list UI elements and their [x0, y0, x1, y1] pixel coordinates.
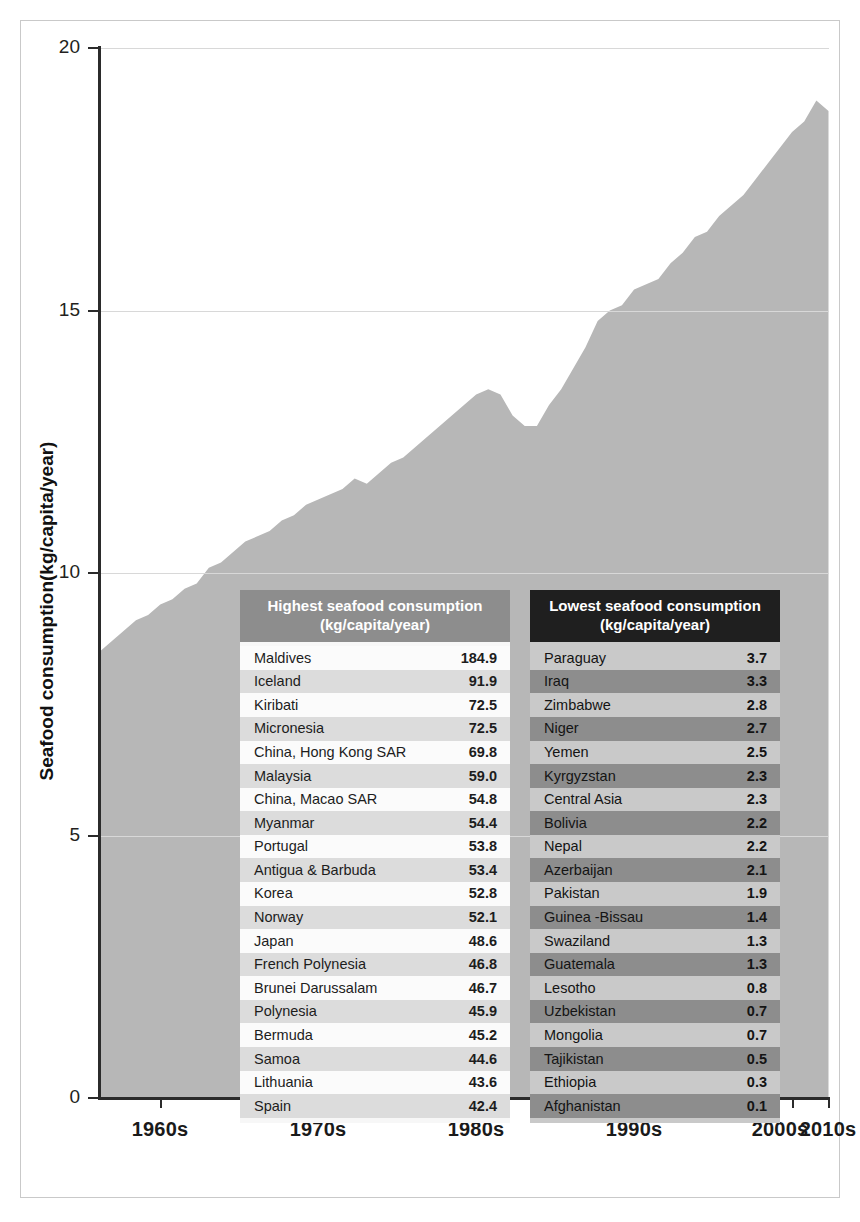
highest-country: Antigua & Barbuda — [254, 860, 376, 881]
table-lowest-consumption: Lowest seafood consumption (kg/capita/ye… — [530, 590, 780, 1123]
lowest-country: Yemen — [544, 742, 589, 763]
highest-country: Norway — [254, 907, 303, 928]
highest-country: Korea — [254, 883, 293, 904]
table-row: Guatemala1.3 — [530, 953, 780, 977]
highest-country: Lithuania — [254, 1072, 313, 1093]
highest-value: 72.5 — [469, 718, 497, 739]
x-tick-2000s — [792, 1097, 794, 1108]
highest-value: 69.8 — [469, 742, 497, 763]
highest-value: 72.5 — [469, 695, 497, 716]
lowest-value: 0.1 — [747, 1096, 767, 1117]
lowest-country: Niger — [544, 718, 579, 739]
y-tick-label-5: 5 — [40, 825, 80, 844]
lowest-country: Iraq — [544, 671, 569, 692]
lowest-value: 2.3 — [747, 766, 767, 787]
table-row: Norway52.1 — [240, 906, 510, 930]
lowest-value: 0.3 — [747, 1072, 767, 1093]
table-row: Yemen2.5 — [530, 741, 780, 765]
table-row: Malaysia59.0 — [240, 764, 510, 788]
table-row: Pakistan1.9 — [530, 882, 780, 906]
highest-country: Kiribati — [254, 695, 298, 716]
y-tick-label-20: 20 — [40, 37, 80, 56]
highest-country: Polynesia — [254, 1001, 317, 1022]
table-row: Lesotho0.8 — [530, 976, 780, 1000]
table-row: Myanmar54.4 — [240, 811, 510, 835]
lowest-value: 2.8 — [747, 695, 767, 716]
table-row: China, Macao SAR54.8 — [240, 788, 510, 812]
table-row: Bolivia2.2 — [530, 811, 780, 835]
lowest-value: 0.7 — [747, 1025, 767, 1046]
lowest-value: 2.3 — [747, 789, 767, 810]
chart-figure: 20151050 1960s1970s1980s1990s2000s2010s … — [0, 0, 860, 1222]
table-row: Central Asia2.3 — [530, 788, 780, 812]
table-row: Afghanistan0.1 — [530, 1094, 780, 1118]
table-row: Maldives184.9 — [240, 646, 510, 670]
table-row: Portugal53.8 — [240, 835, 510, 859]
lowest-value: 0.5 — [747, 1049, 767, 1070]
table-row: China, Hong Kong SAR69.8 — [240, 741, 510, 765]
lowest-country: Nepal — [544, 836, 582, 857]
y-tick-0 — [88, 1097, 99, 1099]
highest-value: 43.6 — [469, 1072, 497, 1093]
lowest-country: Lesotho — [544, 978, 596, 999]
lowest-value: 0.7 — [747, 1001, 767, 1022]
highest-country: Brunei Darussalam — [254, 978, 377, 999]
y-tick-label-15: 15 — [40, 300, 80, 319]
y-tick-5 — [88, 835, 99, 837]
highest-country: China, Macao SAR — [254, 789, 377, 810]
table-row: Azerbaijan2.1 — [530, 858, 780, 882]
lowest-country: Guinea -Bissau — [544, 907, 643, 928]
table-highest-header-line1: Highest seafood consumption — [246, 597, 504, 616]
highest-value: 52.8 — [469, 883, 497, 904]
gridline-10 — [98, 573, 829, 574]
lowest-value: 1.3 — [747, 954, 767, 975]
table-row: Nepal2.2 — [530, 835, 780, 859]
y-tick-20 — [88, 47, 99, 49]
x-tick-1960s — [160, 1097, 162, 1108]
table-row: Guinea -Bissau1.4 — [530, 906, 780, 930]
highest-value: 45.2 — [469, 1025, 497, 1046]
lowest-value: 1.9 — [747, 883, 767, 904]
lowest-country: Zimbabwe — [544, 695, 611, 716]
table-row: Samoa44.6 — [240, 1047, 510, 1071]
highest-country: Iceland — [254, 671, 301, 692]
gridline-20 — [98, 48, 829, 49]
highest-country: Micronesia — [254, 718, 324, 739]
highest-value: 59.0 — [469, 766, 497, 787]
y-tick-15 — [88, 310, 99, 312]
table-highest-header-line2: (kg/capita/year) — [246, 616, 504, 635]
table-highest-consumption: Highest seafood consumption (kg/capita/y… — [240, 590, 510, 1123]
table-highest-header: Highest seafood consumption (kg/capita/y… — [240, 590, 510, 642]
table-lowest-body: Paraguay3.7Iraq3.3Zimbabwe2.8Niger2.7Yem… — [530, 642, 780, 1123]
lowest-value: 1.4 — [747, 907, 767, 928]
table-row: Iraq3.3 — [530, 670, 780, 694]
table-row: Kiribati72.5 — [240, 693, 510, 717]
lowest-country: Bolivia — [544, 813, 587, 834]
x-tick-2010s — [828, 1097, 830, 1108]
highest-country: Portugal — [254, 836, 308, 857]
lowest-country: Guatemala — [544, 954, 615, 975]
y-tick-label-0: 0 — [40, 1087, 80, 1106]
lowest-value: 2.1 — [747, 860, 767, 881]
table-lowest-header: Lowest seafood consumption (kg/capita/ye… — [530, 590, 780, 642]
highest-value: 52.1 — [469, 907, 497, 928]
lowest-country: Pakistan — [544, 883, 600, 904]
table-highest-body: Maldives184.9Iceland91.9Kiribati72.5Micr… — [240, 642, 510, 1123]
table-row: Tajikistan0.5 — [530, 1047, 780, 1071]
lowest-value: 3.3 — [747, 671, 767, 692]
table-row: Lithuania43.6 — [240, 1071, 510, 1095]
highest-value: 184.9 — [461, 648, 497, 669]
highest-value: 53.8 — [469, 836, 497, 857]
x-tick-label-1960s: 1960s — [132, 1118, 189, 1141]
lowest-country: Uzbekistan — [544, 1001, 616, 1022]
highest-country: Malaysia — [254, 766, 311, 787]
table-row: French Polynesia46.8 — [240, 953, 510, 977]
highest-value: 46.7 — [469, 978, 497, 999]
highest-value: 54.8 — [469, 789, 497, 810]
highest-country: China, Hong Kong SAR — [254, 742, 406, 763]
table-row: Micronesia72.5 — [240, 717, 510, 741]
table-row: Bermuda45.2 — [240, 1023, 510, 1047]
lowest-country: Tajikistan — [544, 1049, 604, 1070]
lowest-value: 3.7 — [747, 648, 767, 669]
highest-value: 45.9 — [469, 1001, 497, 1022]
